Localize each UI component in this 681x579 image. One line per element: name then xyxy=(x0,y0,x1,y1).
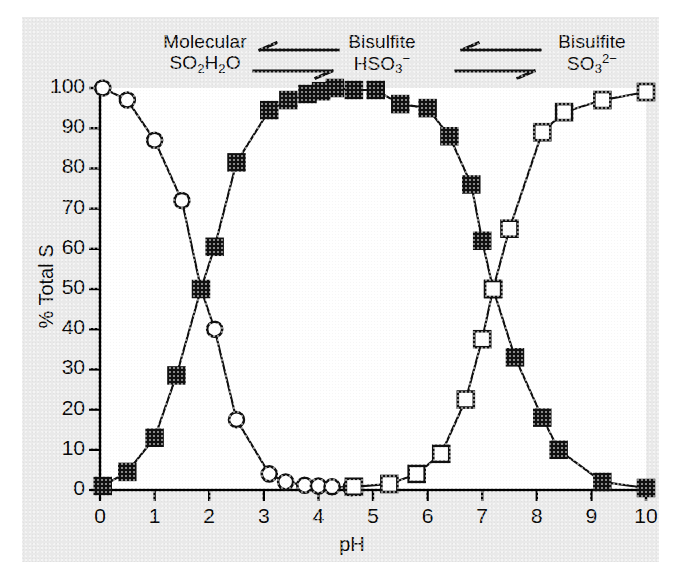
data-point-filled-square xyxy=(506,349,523,366)
data-point-open-square xyxy=(502,221,518,237)
data-point-open-square xyxy=(638,84,654,100)
data-point-filled-square xyxy=(367,82,384,99)
y-tick-label: 100 xyxy=(39,74,85,98)
data-point-open-square xyxy=(433,446,449,462)
x-tick-label: 4 xyxy=(298,504,338,528)
data-point-filled-square xyxy=(474,232,491,249)
data-point-open-square xyxy=(485,281,501,297)
y-tick-label: 30 xyxy=(39,355,85,379)
data-point-open-circle xyxy=(120,93,135,108)
plot-background xyxy=(100,88,646,490)
x-tick-label: 2 xyxy=(189,504,229,528)
data-point-filled-square xyxy=(326,80,343,97)
data-point-open-square xyxy=(534,124,550,140)
data-point-filled-square xyxy=(534,409,551,426)
x-tick-label: 6 xyxy=(408,504,448,528)
y-tick-label: 70 xyxy=(39,195,85,219)
y-tick-label: 50 xyxy=(39,275,85,299)
y-tick-label: 40 xyxy=(39,315,85,339)
x-tick-label: 3 xyxy=(244,504,284,528)
x-tick-label: 0 xyxy=(80,504,120,528)
data-point-filled-square xyxy=(228,154,245,171)
y-tick-label: 60 xyxy=(39,235,85,259)
data-point-open-square xyxy=(346,479,362,495)
data-point-filled-square xyxy=(94,477,111,494)
data-point-open-circle xyxy=(325,479,340,494)
data-point-filled-square xyxy=(638,479,655,496)
data-point-open-circle xyxy=(174,193,189,208)
data-point-filled-square xyxy=(280,92,297,109)
data-point-filled-square xyxy=(261,102,278,119)
x-axis-label: pH xyxy=(322,533,382,556)
x-tick-label: 5 xyxy=(353,504,393,528)
data-point-filled-square xyxy=(550,441,567,458)
data-point-open-circle xyxy=(262,466,277,481)
y-tick-label: 10 xyxy=(39,436,85,460)
data-point-filled-square xyxy=(419,100,436,117)
y-tick-label: 90 xyxy=(39,114,85,138)
y-tick-label: 0 xyxy=(39,476,85,500)
speciation-plot xyxy=(22,17,659,562)
data-point-open-circle xyxy=(147,133,162,148)
data-point-open-circle xyxy=(229,412,244,427)
data-point-open-circle xyxy=(278,474,293,489)
data-point-filled-square xyxy=(146,429,163,446)
x-tick-label: 1 xyxy=(135,504,175,528)
y-tick-label: 80 xyxy=(39,154,85,178)
x-tick-label: 10 xyxy=(626,504,666,528)
data-point-open-square xyxy=(381,476,397,492)
data-point-open-circle xyxy=(207,322,222,337)
figure-panel: Molecular SO2H2O Bisulfite HSO3− Bisulfi… xyxy=(22,17,659,562)
data-point-filled-square xyxy=(594,473,611,490)
x-tick-label: 9 xyxy=(571,504,611,528)
data-point-filled-square xyxy=(345,82,362,99)
data-point-filled-square xyxy=(392,96,409,113)
data-point-filled-square xyxy=(168,367,185,384)
data-point-open-circle xyxy=(95,81,110,96)
data-point-filled-square xyxy=(193,281,210,298)
data-point-filled-square xyxy=(463,176,480,193)
data-point-open-square xyxy=(409,466,425,482)
data-point-open-square xyxy=(458,392,474,408)
y-tick-label: 20 xyxy=(39,396,85,420)
data-point-filled-square xyxy=(206,238,223,255)
data-point-filled-square xyxy=(119,463,136,480)
x-tick-label: 7 xyxy=(462,504,502,528)
data-point-open-square xyxy=(474,331,490,347)
data-point-open-square xyxy=(594,92,610,108)
data-point-filled-square xyxy=(441,128,458,145)
x-tick-label: 8 xyxy=(517,504,557,528)
data-point-open-square xyxy=(556,104,572,120)
